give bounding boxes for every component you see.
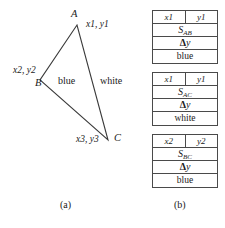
cell-y-coord: y1 bbox=[186, 73, 218, 85]
edge-label-ab: blue bbox=[58, 76, 75, 86]
cell-y-coord-value: y1 bbox=[197, 75, 206, 84]
cell-slope-value: SAC bbox=[178, 87, 192, 97]
table-row-delta: Δy bbox=[153, 37, 217, 50]
cell-color: white bbox=[153, 112, 217, 125]
table-row-slope: SAB bbox=[153, 24, 217, 37]
cell-color-value: white bbox=[174, 114, 195, 124]
vertex-coords-b: x2, y2 bbox=[13, 66, 36, 76]
caption-panel-a: (a) bbox=[60, 199, 71, 210]
table-row-coords: x1 y1 bbox=[153, 73, 217, 86]
cell-x-coord-value: x1 bbox=[165, 75, 174, 84]
cell-x-coord: x1 bbox=[153, 11, 186, 23]
cell-delta: Δy bbox=[153, 99, 217, 111]
figure-root: A x1, y1 B x2, y2 C x3, y3 blue white x1… bbox=[0, 0, 225, 228]
cell-slope-value: SBC bbox=[178, 149, 192, 159]
cell-x-coord: x1 bbox=[153, 73, 186, 85]
table-row-color: white bbox=[153, 112, 217, 125]
cell-color-value: blue bbox=[177, 52, 193, 62]
slope-subscript: AC bbox=[183, 91, 192, 98]
cell-color: blue bbox=[153, 174, 217, 187]
cell-color-value: blue bbox=[177, 176, 193, 186]
cell-x-coord-value: x2 bbox=[165, 137, 174, 146]
table-row-delta: Δy bbox=[153, 161, 217, 174]
cell-x-coord: x2 bbox=[153, 135, 186, 147]
cell-delta: Δy bbox=[153, 161, 217, 173]
cell-slope-value: SAB bbox=[178, 25, 192, 35]
delta-variable: y bbox=[186, 100, 190, 110]
vertex-coords-c: x3, y3 bbox=[76, 135, 99, 145]
table-row-slope: SAC bbox=[153, 86, 217, 99]
cell-delta: Δy bbox=[153, 37, 217, 49]
table-row-coords: x2 y2 bbox=[153, 135, 217, 148]
cell-color: blue bbox=[153, 50, 217, 63]
vertex-label-c: C bbox=[114, 133, 121, 144]
cell-slope: SAC bbox=[153, 86, 217, 98]
vertex-coords-a: x1, y1 bbox=[86, 20, 109, 30]
caption-panel-b: (b) bbox=[174, 199, 186, 210]
panel-b-record-tables: x1 y1 SAB Δy blue bbox=[152, 10, 218, 196]
edge-label-ac: white bbox=[100, 76, 122, 86]
table-row-coords: x1 y1 bbox=[153, 11, 217, 24]
cell-slope: SBC bbox=[153, 148, 217, 160]
vertex-label-b: B bbox=[35, 78, 41, 89]
delta-variable: y bbox=[186, 162, 190, 172]
table-row-color: blue bbox=[153, 50, 217, 63]
cell-x-coord-value: x1 bbox=[165, 13, 174, 22]
table-row-delta: Δy bbox=[153, 99, 217, 112]
slope-subscript: BC bbox=[183, 153, 192, 160]
panel-a-triangle-diagram: A x1, y1 B x2, y2 C x3, y3 blue white bbox=[0, 0, 140, 228]
cell-y-coord: y2 bbox=[186, 135, 218, 147]
table-row-color: blue bbox=[153, 174, 217, 187]
record-table-ab: x1 y1 SAB Δy blue bbox=[152, 10, 218, 64]
vertex-label-a: A bbox=[71, 9, 77, 20]
cell-y-coord: y1 bbox=[186, 11, 218, 23]
cell-y-coord-value: y2 bbox=[197, 137, 206, 146]
cell-slope: SAB bbox=[153, 24, 217, 36]
triangle-shape bbox=[0, 0, 140, 228]
delta-variable: y bbox=[186, 38, 190, 48]
cell-y-coord-value: y1 bbox=[197, 13, 206, 22]
table-row-slope: SBC bbox=[153, 148, 217, 161]
slope-subscript: AB bbox=[183, 29, 192, 36]
record-table-ac: x1 y1 SAC Δy white bbox=[152, 72, 218, 126]
record-table-bc: x2 y2 SBC Δy blue bbox=[152, 134, 218, 188]
